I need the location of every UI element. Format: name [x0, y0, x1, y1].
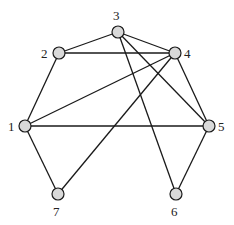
node-label-2: 2: [41, 46, 48, 61]
node-6: [170, 188, 182, 200]
edge-4-7: [58, 53, 175, 194]
node-2: [53, 47, 65, 59]
edge-4-1: [25, 53, 175, 126]
node-label-3: 3: [113, 8, 120, 23]
node-label-4: 4: [184, 46, 191, 61]
node-4: [169, 47, 181, 59]
node-label-1: 1: [8, 119, 15, 134]
graph-diagram: 1234567: [0, 0, 234, 225]
node-label-7: 7: [53, 204, 60, 219]
node-3: [112, 26, 124, 38]
edge-3-5: [118, 32, 209, 126]
node-label-5: 5: [218, 119, 225, 134]
node-1: [19, 120, 31, 132]
node-label-6: 6: [171, 204, 178, 219]
edges: [25, 32, 209, 194]
edge-3-4: [118, 32, 175, 53]
node-7: [52, 188, 64, 200]
node-5: [203, 120, 215, 132]
edge-1-2: [25, 53, 59, 126]
edge-4-5: [175, 53, 209, 126]
edge-2-3: [59, 32, 118, 53]
edge-1-7: [25, 126, 58, 194]
nodes: 1234567: [8, 8, 225, 219]
edge-5-6: [176, 126, 209, 194]
